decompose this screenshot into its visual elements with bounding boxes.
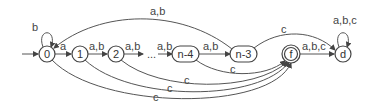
edge-label-n4-n3: a,b (203, 40, 218, 52)
edge-label-n4-f: c (230, 63, 236, 75)
edge-label-0-1: a (60, 40, 67, 52)
state-label-n-4: n-4 (178, 48, 194, 60)
state-n-4: n-4 (172, 46, 199, 62)
state-0: 0 (39, 46, 55, 62)
edge-label-n3-0: a,b (150, 5, 165, 17)
edge-0-0 (42, 33, 53, 47)
edge-label-f-d: a,b,c (302, 40, 326, 52)
edge-label-0-f: c (153, 91, 159, 103)
edge-label-d-d: a,b,c (333, 14, 357, 26)
state-n-3: n-3 (230, 46, 257, 62)
state-d: d (335, 46, 351, 62)
edge-label-1-f: c (167, 82, 173, 94)
edge-label-2-ellipsis: a,b (125, 40, 140, 52)
edge-d-d (338, 33, 349, 47)
edge-label-0-0: b (32, 21, 38, 33)
state-label-1: 1 (77, 48, 83, 60)
state-1: 1 (72, 46, 88, 62)
state-label-0: 0 (44, 48, 50, 60)
state-label-d: d (340, 48, 346, 60)
state-2: 2 (108, 46, 124, 62)
edge-label-ellipsis-n4: a,b (157, 40, 172, 52)
state-label-n-3: n-3 (236, 48, 252, 60)
automaton-diagram: b a a,b a,b ... a,b a,b a,b c c c c c a,… (0, 0, 380, 112)
edge-label-n3-d: c (281, 23, 287, 35)
ellipsis: ... (147, 48, 156, 60)
state-f-accepting: f (282, 45, 300, 63)
edge-label-1-2: a,b (89, 40, 104, 52)
state-label-2: 2 (113, 48, 119, 60)
edge-label-2-f: c (184, 74, 190, 86)
